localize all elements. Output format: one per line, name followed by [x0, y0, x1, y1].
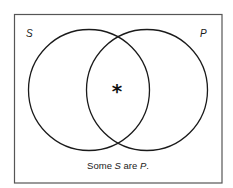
set-label-s: S	[26, 28, 33, 39]
existence-marker-asterisk: *	[112, 79, 123, 103]
set-label-p: P	[200, 28, 207, 39]
caption-prefix: Some	[87, 160, 114, 171]
venn-diagram: S P * Some S are P.	[0, 0, 233, 188]
circle-s	[29, 30, 150, 151]
caption: Some S are P.	[87, 160, 149, 171]
caption-middle: are	[121, 160, 140, 171]
circle-p	[87, 30, 208, 151]
caption-suffix: .	[146, 160, 149, 171]
